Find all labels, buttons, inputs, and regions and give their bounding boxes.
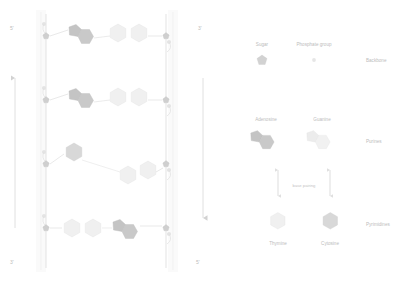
backbone-connectors	[43, 24, 171, 244]
legend-sugar: Sugar	[256, 42, 269, 65]
legend-pyrimidines: Thymine Cytosine Pyrimidines	[269, 213, 390, 246]
pentagon-icon	[257, 55, 267, 65]
dna-diagram-page: 5' 3' 3' 5' Sugar Phosphate group Backbo…	[0, 0, 403, 285]
base-pair-rung-4	[50, 219, 162, 239]
hexagon-icon-thymine	[271, 213, 285, 230]
legend-purines-group-label: Purines	[366, 139, 382, 144]
fused-ring-icon-adenosine	[251, 131, 274, 149]
label-bottom-left-prime: 3'	[10, 259, 14, 265]
legend-backbone: Backbone	[366, 58, 387, 63]
legend-cytosine-label: Cytosine	[321, 241, 339, 246]
legend-panel: Sugar Phosphate group Backbone Adenosine…	[251, 42, 391, 246]
legend-thymine-label: Thymine	[269, 241, 287, 246]
legend-sugar-label: Sugar	[256, 42, 269, 47]
legend-purines: Adenosine Guanine Purines	[251, 117, 382, 149]
hexagon-icon-cytosine	[323, 213, 337, 230]
base-pairing-indicator: base pairing	[278, 170, 330, 196]
legend-adenosine-label: Adenosine	[255, 117, 277, 122]
base-pair-rung-2	[50, 88, 162, 108]
label-bottom-right-prime: 5'	[196, 259, 200, 265]
fused-ring-icon-guanine	[307, 131, 330, 149]
legend-backbone-label: Backbone	[366, 58, 387, 63]
legend-guanine-label: Guanine	[313, 117, 331, 122]
base-pairing-label: base pairing	[293, 183, 316, 188]
base-pair-rung-1	[50, 24, 162, 44]
label-top-right-prime: 3'	[198, 25, 202, 31]
helix-guide-bands	[36, 10, 178, 272]
circle-icon	[312, 58, 316, 62]
dna-ladder: 5' 3' 3' 5'	[10, 10, 203, 272]
label-top-left-prime: 5'	[10, 25, 14, 31]
dna-diagram-canvas: 5' 3' 3' 5' Sugar Phosphate group Backbo…	[0, 0, 403, 285]
legend-phosphate: Phosphate group	[297, 42, 332, 62]
legend-phosphate-label: Phosphate group	[297, 42, 332, 47]
legend-pyrimidines-group-label: Pyrimidines	[366, 222, 390, 227]
base-pair-rung-3	[50, 143, 163, 184]
